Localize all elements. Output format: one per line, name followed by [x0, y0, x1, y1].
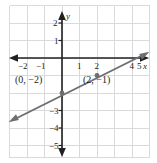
x-tick-label-5: 5: [137, 62, 142, 71]
point-annotation-first: (0, −2): [15, 75, 42, 85]
y-axis: [58, 11, 66, 157]
y-tick-label-neg5: −5: [49, 142, 59, 151]
x-tick-label-1: 1: [77, 62, 82, 71]
y-tick-label-neg3: −3: [49, 107, 59, 116]
x-tick-label-neg2: −2: [18, 62, 28, 71]
x-tick-label-2: 2: [95, 62, 100, 71]
y-axis-top-arrowhead: [58, 11, 66, 20]
x-tick-label-neg1: −1: [36, 62, 46, 71]
y-axis-name-label: y: [66, 12, 70, 21]
data-point-0-neg2: [60, 91, 65, 96]
x-axis-name-label: x: [143, 62, 147, 71]
x-axis-left-arrowhead: [9, 54, 18, 62]
y-tick-label-1: 1: [54, 37, 59, 46]
point-annotation-second: (2, −1): [83, 75, 110, 85]
y-tick-label-neg4: −4: [49, 124, 59, 133]
y-tick-label-2: 2: [53, 19, 58, 28]
x-tick-label-4: 4: [130, 62, 135, 71]
line-lower-left-arrowhead: [9, 114, 19, 122]
y-axis-bottom-arrowhead: [58, 148, 66, 157]
coordinate-plane-figure: −2 −1 1 2 4 5 2 1 −3 −4 −5 x y (0, −2) (…: [0, 0, 157, 163]
